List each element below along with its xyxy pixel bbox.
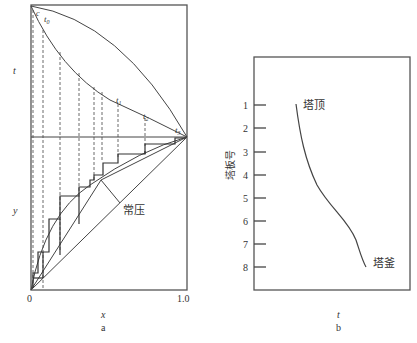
- dew-point-curve: [31, 6, 187, 137]
- svg-text:8: 8: [243, 262, 248, 273]
- diagonal-line: [31, 137, 187, 290]
- panel-label-a: a: [101, 322, 106, 333]
- svg-text:4: 4: [243, 170, 248, 181]
- panel-a: c t0 t1 t2 t3 常压 t y 0 1.0 x a: [12, 5, 190, 333]
- axis-label-tray-number: 塔板号: [224, 150, 236, 180]
- label-c: c: [36, 9, 40, 18]
- svg-text:7: 7: [243, 239, 248, 250]
- svg-text:1: 1: [243, 100, 248, 111]
- x-tick-1: 1.0: [177, 293, 190, 304]
- panel-label-b: b: [336, 322, 341, 333]
- tray-ticks: [254, 105, 266, 267]
- axis-label-y: y: [12, 205, 18, 216]
- label-atmospheric: 常压: [123, 204, 145, 216]
- panel-b: 1 2 3 4 5 6 7 8 塔顶 塔釜 塔板号 t b: [224, 57, 410, 333]
- svg-text:6: 6: [243, 216, 248, 227]
- label-column-bottom: 塔釜: [373, 256, 395, 269]
- label-t2: t2: [143, 111, 149, 122]
- label-t1: t1: [116, 95, 122, 106]
- svg-text:3: 3: [243, 147, 248, 158]
- label-column-top: 塔顶: [303, 99, 325, 111]
- axis-label-x: x: [100, 309, 106, 320]
- label-t0: t0: [44, 14, 50, 25]
- axis-label-t: t: [13, 65, 16, 76]
- svg-text:2: 2: [243, 123, 248, 134]
- figure: c t0 t1 t2 t3 常压 t y 0 1.0 x a 1 2 3 4: [0, 0, 417, 343]
- bubble-point-curve: [31, 6, 187, 137]
- panel-b-frame: [254, 57, 410, 290]
- axis-label-t-b: t: [337, 309, 340, 320]
- svg-text:5: 5: [243, 193, 248, 204]
- tray-tick-labels: 1 2 3 4 5 6 7 8: [243, 100, 248, 273]
- q-line: [101, 180, 120, 203]
- temperature-profile-curve: [296, 104, 366, 267]
- dashed-projection-lines: [33, 10, 145, 288]
- label-t3: t3: [175, 125, 181, 136]
- x-tick-0: 0: [27, 293, 32, 304]
